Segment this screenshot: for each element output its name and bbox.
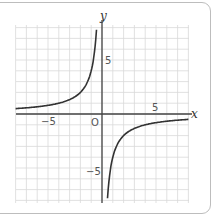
curve-left-branch	[16, 30, 97, 109]
y-tick-5: 5	[105, 55, 111, 66]
origin-label: O	[91, 117, 99, 128]
x-tick-neg5: −5	[41, 116, 56, 127]
x-tick-5: 5	[152, 102, 158, 113]
y-tick-neg5: −5	[86, 166, 101, 177]
curve-right-branch	[108, 119, 189, 198]
hyperbola-chart: y x O −5 5 5 −5	[0, 0, 221, 223]
x-axis-label: x	[191, 107, 198, 121]
y-axis-label: y	[99, 9, 107, 23]
